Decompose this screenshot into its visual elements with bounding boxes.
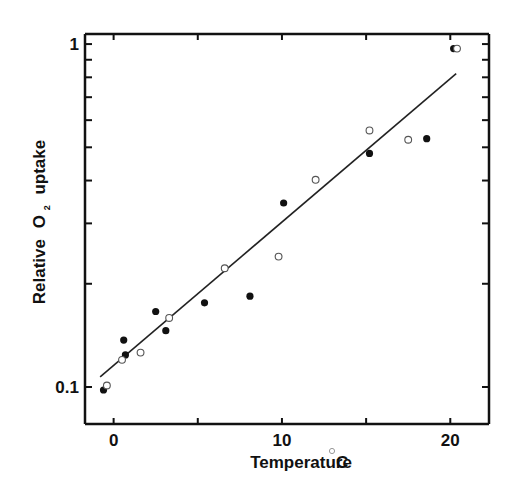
series-filled	[100, 45, 457, 394]
data-point-filled	[280, 199, 287, 206]
data-point-filled	[246, 293, 253, 300]
data-point-filled	[366, 150, 373, 157]
data-point-filled	[120, 337, 127, 344]
series-open	[103, 45, 460, 389]
x-axis-unit-letter: C	[336, 453, 348, 472]
data-point-open	[103, 382, 110, 389]
data-points	[100, 45, 461, 394]
y-axis-title-part2: O	[30, 215, 49, 228]
x-axis-ticks	[114, 34, 451, 424]
data-point-filled	[201, 299, 208, 306]
y-axis-title-part3: uptake	[30, 140, 49, 195]
data-point-open	[119, 356, 126, 363]
plot-frame	[85, 34, 489, 424]
data-point-open	[137, 349, 144, 356]
data-point-filled	[423, 135, 430, 142]
y-axis-tick-labels: 0.11	[55, 35, 79, 397]
data-point-open	[166, 315, 173, 322]
x-tick-label: 0	[109, 431, 118, 450]
data-point-open	[366, 127, 373, 134]
x-tick-label: 20	[441, 431, 460, 450]
y-axis-title-subscript: 2	[42, 205, 52, 210]
y-axis-title-part1: Relative	[30, 239, 49, 304]
regression-line	[100, 74, 456, 377]
y-tick-label: 1	[70, 35, 79, 54]
data-point-open	[312, 176, 319, 183]
data-point-open	[221, 265, 228, 272]
data-point-open	[454, 45, 461, 52]
chart: 01020 0.11 Temperature C Relative O 2 up…	[0, 0, 517, 490]
data-point-filled	[152, 308, 159, 315]
y-axis-title: Relative O 2 uptake	[30, 140, 54, 304]
x-tick-label: 10	[272, 431, 291, 450]
data-point-open	[405, 136, 412, 143]
x-axis-tick-labels: 01020	[109, 431, 460, 450]
data-point-open	[275, 253, 282, 260]
y-axis-ticks	[85, 44, 489, 387]
fit-line-group	[100, 74, 456, 377]
y-tick-label: 0.1	[55, 378, 79, 397]
data-point-filled	[162, 327, 169, 334]
